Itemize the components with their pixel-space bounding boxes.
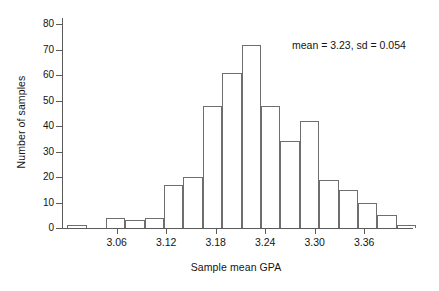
x-tick-mark xyxy=(364,229,365,234)
histogram-bar xyxy=(280,141,299,228)
x-tick-mark xyxy=(166,229,167,234)
y-tick-label: 30 xyxy=(14,147,54,157)
histogram-bar xyxy=(106,218,125,228)
x-tick-label: 3.30 xyxy=(295,236,335,248)
histogram-bar xyxy=(222,73,241,228)
histogram-bar xyxy=(242,45,261,229)
y-tick-mark xyxy=(56,75,62,76)
histogram-bar xyxy=(183,177,202,228)
histogram-bar xyxy=(319,180,338,228)
histogram-bar xyxy=(261,106,280,228)
y-tick-label: 70 xyxy=(14,45,54,55)
histogram-bar xyxy=(300,121,319,228)
stats-annotation: mean = 3.23, sd = 0.054 xyxy=(292,39,406,51)
histogram-chart: Number of samples 01020304050607080 3.06… xyxy=(0,0,439,291)
y-tick-mark xyxy=(56,50,62,51)
y-tick-mark xyxy=(56,177,62,178)
x-axis-line xyxy=(62,228,413,229)
x-tick-label: 3.18 xyxy=(196,236,236,248)
x-tick-mark xyxy=(117,229,118,234)
x-tick-label: 3.06 xyxy=(97,236,137,248)
x-tick-mark xyxy=(216,229,217,234)
y-tick-label: 10 xyxy=(14,198,54,208)
y-tick-label: 80 xyxy=(14,19,54,29)
histogram-bar xyxy=(164,185,183,228)
histogram-bar xyxy=(125,220,144,228)
y-tick-mark xyxy=(56,228,62,229)
histogram-bar xyxy=(203,106,222,228)
histogram-bar xyxy=(358,203,377,228)
y-tick-label: 60 xyxy=(14,70,54,80)
y-tick-mark xyxy=(56,126,62,127)
x-tick-label: 3.24 xyxy=(245,236,285,248)
histogram-bar xyxy=(145,218,164,228)
x-tick-label: 3.36 xyxy=(344,236,384,248)
y-tick-mark xyxy=(56,101,62,102)
x-tick-label: 3.12 xyxy=(146,236,186,248)
y-tick-label: 0 xyxy=(14,223,54,233)
y-tick-label: 20 xyxy=(14,172,54,182)
y-tick-mark xyxy=(56,203,62,204)
y-tick-label: 50 xyxy=(14,96,54,106)
y-tick-label: 40 xyxy=(14,121,54,131)
y-tick-mark xyxy=(56,152,62,153)
y-tick-mark xyxy=(56,24,62,25)
histogram-bar xyxy=(377,215,396,228)
x-tick-mark xyxy=(265,229,266,234)
y-axis-line xyxy=(62,18,63,229)
x-tick-mark xyxy=(315,229,316,234)
x-axis-title: Sample mean GPA xyxy=(60,261,412,273)
histogram-bar xyxy=(339,190,358,228)
